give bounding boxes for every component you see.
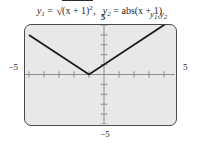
graphing-calculator-screen: [24, 24, 177, 126]
axis-label-xmin: −5: [2, 62, 18, 72]
radicand-text: (x + 1): [62, 5, 89, 16]
axis-label-xmax: 5: [183, 62, 197, 72]
curve-y1-y2: [29, 25, 175, 75]
axes-group: [25, 25, 175, 124]
axis-label-ymin: −5: [95, 129, 115, 139]
radical-expression: √(x + 1)2: [56, 0, 94, 18]
plot-area: [25, 25, 175, 124]
equation-y1-subscript: 1: [41, 10, 45, 18]
axis-label-ymax: 5: [95, 12, 111, 22]
curve-label-y2-subscript: 2: [164, 13, 168, 21]
curve-label: y1,y2: [150, 9, 167, 22]
equation-y1-equals: =: [47, 5, 53, 16]
equation-y1: y1 = √(x + 1)2,: [37, 0, 96, 21]
equation-y2-equals: =: [113, 5, 119, 16]
radicand: (x + 1)2: [62, 0, 94, 18]
radicand-exponent: 2: [89, 4, 93, 12]
